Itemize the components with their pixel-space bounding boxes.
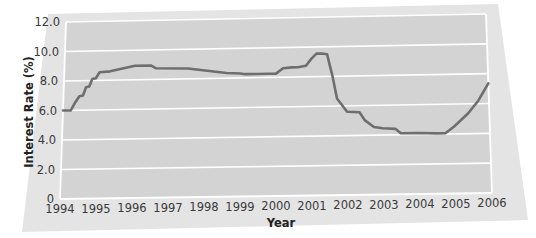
y-tick-8.0: 8.0 [40,74,58,88]
y-tick-12.0: 12.0 [34,15,60,29]
y-tick-10.0: 10.0 [33,45,59,59]
x-tick-2005: 2005 [441,197,470,211]
x-tick-2006: 2006 [477,196,506,210]
y-tick-4.0: 4.0 [38,133,56,147]
x-tick-2004: 2004 [405,197,434,211]
y-axis-title: Interest Rate (%) [22,56,36,168]
x-tick-2000: 2000 [261,199,290,213]
x-tick-1999: 1999 [225,200,254,214]
chart-canvas: 02.04.06.08.010.012.0 199419951996199719… [0,0,536,238]
x-tick-2001: 2001 [297,199,326,213]
x-tick-2003: 2003 [369,198,398,212]
x-tick-1996: 1996 [117,201,146,215]
x-tick-1995: 1995 [81,202,110,216]
interest-rate-line-chart-figure: 02.04.06.08.010.012.0 199419951996199719… [0,0,536,238]
x-tick-2002: 2002 [333,198,362,212]
y-tick-6.0: 6.0 [39,104,57,118]
x-tick-1997: 1997 [153,201,182,215]
y-tick-2.0: 2.0 [37,163,55,177]
x-tick-1994: 1994 [45,202,74,216]
x-axis-title: Year [266,216,296,230]
x-tick-1998: 1998 [189,200,218,214]
